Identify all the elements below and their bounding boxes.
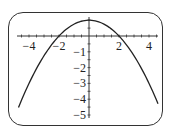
plot-area: −4−224−1−2−3−4−5 bbox=[0, 0, 170, 133]
x-tick-label: −4 bbox=[23, 39, 36, 53]
x-tick-label: 2 bbox=[116, 39, 122, 53]
y-tick-label: −3 bbox=[73, 76, 86, 90]
y-tick-label: −4 bbox=[73, 92, 86, 106]
y-tick-label: −2 bbox=[73, 61, 86, 75]
y-tick-label: −5 bbox=[73, 108, 86, 122]
y-tick-label: −1 bbox=[73, 45, 86, 59]
parabola-curve bbox=[19, 20, 159, 107]
x-tick-label: 4 bbox=[146, 39, 152, 53]
